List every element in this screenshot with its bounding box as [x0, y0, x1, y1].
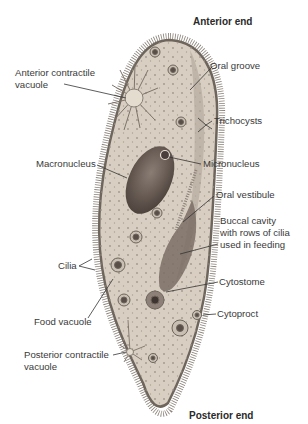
label-line-2: vacuole — [15, 79, 95, 91]
label-oral-vestibule: Oral vestibule — [216, 189, 275, 201]
label-line-1: Anterior contractile — [15, 67, 95, 79]
label-posterior-end: Posterior end — [189, 410, 253, 422]
label-line-2: with rows of cilia — [220, 227, 290, 239]
label-line-1: Posterior contractile — [24, 349, 109, 361]
label-anterior-end: Anterior end — [193, 16, 252, 28]
label-trichocysts: Trichocysts — [214, 115, 262, 127]
label-macronucleus: Macronucleus — [36, 158, 96, 170]
label-posterior-contractile-vacuole: Posterior contractile vacuole — [24, 349, 109, 373]
label-line-2: vacuole — [24, 361, 109, 373]
label-buccal-cavity: Buccal cavity with rows of cilia used in… — [220, 215, 290, 251]
label-cilia: Cilia — [58, 260, 77, 272]
label-food-vacuole: Food vacuole — [34, 316, 92, 328]
label-line-3: used in feeding — [220, 239, 290, 251]
label-line-1: Buccal cavity — [220, 215, 290, 227]
label-micronucleus: Micronucleus — [203, 158, 260, 170]
micronucleus-shape — [161, 151, 170, 160]
label-anterior-contractile-vacuole: Anterior contractile vacuole — [15, 67, 95, 91]
label-cytoproct: Cytoproct — [217, 308, 258, 320]
paramecium-diagram: Anterior end Anterior contractile vacuol… — [0, 0, 308, 424]
label-oral-groove: Oral groove — [210, 60, 260, 72]
label-cytostome: Cytostome — [219, 276, 265, 288]
